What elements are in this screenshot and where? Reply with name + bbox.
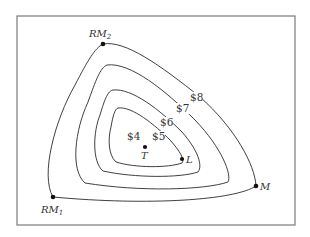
point-rm2-marker xyxy=(101,42,106,47)
point-m-label: M xyxy=(259,181,271,192)
isocost-diagram: $8 $7 $6 $5 $4 RM2 RM1 M T L xyxy=(0,0,310,237)
contour-label-5: $5 xyxy=(152,130,165,142)
contour-label-4: $4 xyxy=(127,130,141,142)
point-m-marker xyxy=(254,184,259,189)
point-l-label: L xyxy=(185,154,193,165)
point-rm1-marker xyxy=(51,195,56,200)
contour-label-7: $7 xyxy=(176,102,189,114)
contour-label-6: $6 xyxy=(160,116,174,128)
contour-label-8: $8 xyxy=(190,91,203,103)
point-l-marker xyxy=(180,157,184,161)
point-t-marker xyxy=(143,145,147,149)
